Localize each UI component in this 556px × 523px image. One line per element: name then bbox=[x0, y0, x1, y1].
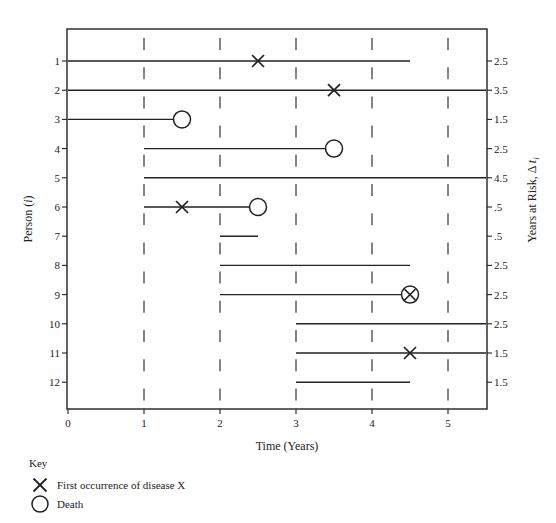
death-marker bbox=[326, 140, 343, 157]
person-axis: 123456789101112 bbox=[49, 55, 67, 388]
legend-entry-label: First occurrence of disease X bbox=[57, 479, 185, 491]
risk-tick-label: .5 bbox=[494, 201, 503, 213]
risk-tick-label: 2.5 bbox=[494, 259, 508, 271]
legend-entry: Death bbox=[32, 496, 84, 512]
follow-up-timeline-chart: 123456789101112 2.53.51.52.54.5.5.52.52.… bbox=[0, 0, 556, 523]
time-tick-label: 3 bbox=[293, 417, 299, 429]
legend-entry: First occurrence of disease X bbox=[34, 479, 186, 492]
person-tick-label: 12 bbox=[49, 376, 60, 388]
time-tick-label: 1 bbox=[141, 417, 147, 429]
y-axis-label-close: ) bbox=[21, 195, 35, 199]
person-tick-label: 3 bbox=[55, 113, 61, 125]
person-tick-label: 10 bbox=[49, 318, 61, 330]
y-axis-label-text: Person ( bbox=[21, 203, 35, 243]
person-tick-label: 4 bbox=[55, 143, 61, 155]
person-tick-label: 8 bbox=[55, 259, 61, 271]
risk-tick-label: 4.5 bbox=[494, 172, 508, 184]
risk-tick-label: 1.5 bbox=[494, 347, 508, 359]
time-axis: 012345 bbox=[65, 409, 451, 429]
person-tick-label: 5 bbox=[55, 172, 61, 184]
legend: Key First occurrence of disease XDeath bbox=[29, 457, 185, 512]
legend-entry-label: Death bbox=[57, 498, 84, 510]
person-tick-label: 9 bbox=[55, 289, 61, 301]
x-axis-label: Time (Years) bbox=[256, 439, 319, 453]
legend-entries: First occurrence of disease XDeath bbox=[32, 479, 185, 513]
right-axis-label-text: Years at Risk, Δ bbox=[525, 163, 539, 243]
risk-tick-label: 3.5 bbox=[494, 84, 508, 96]
person-tick-label: 6 bbox=[55, 201, 61, 213]
person-segments bbox=[68, 61, 486, 382]
person-tick-label: 1 bbox=[55, 55, 61, 67]
right-axis-label: Years at Risk, Δ ti bbox=[525, 157, 541, 243]
legend-title: Key bbox=[29, 457, 48, 469]
y-axis-label: Person (i) bbox=[21, 195, 35, 242]
time-tick-label: 2 bbox=[217, 417, 223, 429]
risk-tick-label: 2.5 bbox=[494, 289, 508, 301]
risk-tick-label: .5 bbox=[494, 230, 503, 242]
death-marker bbox=[174, 111, 191, 128]
risk-tick-label: 1.5 bbox=[494, 113, 508, 125]
risk-tick-label: 2.5 bbox=[494, 318, 508, 330]
risk-tick-label: 2.5 bbox=[494, 143, 508, 155]
death-marker bbox=[250, 199, 267, 216]
risk-tick-label: 2.5 bbox=[494, 55, 508, 67]
time-tick-label: 5 bbox=[445, 417, 451, 429]
risk-tick-label: 1.5 bbox=[494, 376, 508, 388]
time-tick-label: 0 bbox=[65, 417, 71, 429]
person-tick-label: 7 bbox=[55, 230, 61, 242]
gridlines bbox=[144, 38, 448, 401]
years-at-risk-axis: 2.53.51.52.54.5.5.52.52.52.51.51.5 bbox=[487, 55, 508, 388]
time-tick-label: 4 bbox=[369, 417, 375, 429]
plot-frame bbox=[67, 29, 487, 409]
right-axis-label-sub: i bbox=[531, 157, 541, 160]
person-tick-label: 2 bbox=[55, 84, 61, 96]
person-tick-label: 11 bbox=[49, 347, 60, 359]
circle-icon bbox=[32, 496, 48, 512]
